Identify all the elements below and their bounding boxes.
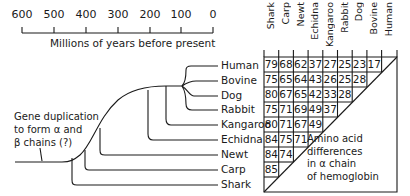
table-cell: 68: [279, 57, 294, 72]
note-line: in α chain: [307, 158, 379, 171]
column-header: Rabbit: [339, 2, 351, 33]
table-cell: 28: [338, 87, 353, 102]
table-cell: 67: [279, 87, 294, 102]
table-cell: 65: [293, 87, 308, 102]
species-label-bovine: Bovine: [221, 74, 257, 86]
table-cell: 80: [264, 87, 279, 102]
note-line: differences: [307, 146, 379, 159]
table-cell: 17: [367, 57, 382, 72]
column-header: Human: [383, 2, 395, 36]
table-cell: 42: [308, 87, 323, 102]
species-label-shark: Shark: [221, 178, 251, 190]
column-header: Kangaroo: [324, 2, 336, 47]
table-cell: 80: [264, 117, 279, 132]
table-cell: 62: [293, 57, 308, 72]
species-label-rabbit: Rabbit: [221, 103, 255, 115]
note-line: β chains (?): [14, 136, 99, 149]
table-cell: 49: [308, 102, 323, 117]
tick-label: 100: [171, 8, 192, 21]
table-cell: 65: [279, 72, 294, 87]
axis-title: Millions of years before present: [50, 37, 215, 49]
tick-label: 200: [140, 8, 161, 21]
tick-label: 300: [108, 8, 129, 21]
table-cell: 49: [308, 117, 323, 132]
table-cell: 37: [323, 102, 338, 117]
table-cell: 74: [279, 147, 294, 162]
table-cell: 75: [279, 132, 294, 147]
table-cell: 27: [323, 57, 338, 72]
table-cell: 75: [264, 102, 279, 117]
table-cell: 25: [338, 57, 353, 72]
column-header: Shark: [265, 2, 277, 29]
table-cell: 84: [264, 147, 279, 162]
table-cell: 23: [352, 57, 367, 72]
tick-label: 600: [12, 8, 33, 21]
table-cell: 33: [323, 87, 338, 102]
table-cell: 26: [323, 72, 338, 87]
table-cell: 84: [264, 132, 279, 147]
note-line: to form α and: [14, 123, 99, 136]
table-cell: 67: [293, 117, 308, 132]
table-cell: 25: [338, 72, 353, 87]
table-cell: 69: [293, 102, 308, 117]
column-header: Bovine: [368, 2, 380, 34]
note-line: of hemoglobin: [307, 171, 379, 184]
species-label-newt: Newt: [221, 148, 248, 160]
species-label-dog: Dog: [221, 89, 242, 101]
table-cell: 64: [293, 72, 308, 87]
table-cell: 71: [293, 132, 308, 147]
species-label-carp: Carp: [221, 163, 246, 175]
table-cell: 28: [352, 72, 367, 87]
tick-label: 500: [44, 8, 65, 21]
species-label-human: Human: [221, 59, 259, 71]
column-header: Dog: [353, 2, 365, 21]
note-line: Amino acid: [307, 133, 379, 146]
table-cell: 37: [308, 57, 323, 72]
tick-label: 400: [76, 8, 97, 21]
column-header: Echidna: [309, 2, 321, 40]
table-cell: 71: [279, 117, 294, 132]
table-cell: 71: [279, 102, 294, 117]
table-cell: 85: [264, 162, 279, 177]
column-header: Carp: [280, 2, 292, 24]
table-cell: 43: [308, 72, 323, 87]
tick-label: 0: [210, 8, 217, 21]
table-cell: 75: [264, 72, 279, 87]
gene-duplication-note: Gene duplication to form α and β chains …: [14, 110, 99, 149]
table-cell: 79: [264, 57, 279, 72]
species-label-echidna: Echidna: [221, 133, 263, 145]
note-line: Gene duplication: [14, 110, 99, 123]
column-header: Newt: [295, 2, 307, 26]
table-note: Amino acid differences in α chain of hem…: [307, 133, 379, 183]
